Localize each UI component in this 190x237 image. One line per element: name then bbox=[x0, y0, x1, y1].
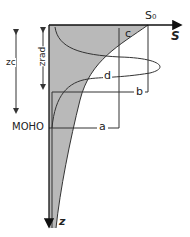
curve-d-label: d bbox=[103, 70, 112, 81]
curve-c-label: c bbox=[125, 28, 131, 39]
curve-a-label: a bbox=[97, 121, 108, 132]
y-axis-label: z bbox=[59, 216, 65, 227]
curve-b-label: b bbox=[134, 86, 145, 97]
diagram-canvas bbox=[0, 0, 190, 237]
zrad-label: zrad bbox=[38, 47, 47, 67]
moho-label: MOHO bbox=[12, 122, 44, 132]
s0-label: S₀ bbox=[145, 10, 156, 21]
x-axis-label: S bbox=[171, 30, 180, 42]
zc-label: zc bbox=[6, 58, 16, 67]
